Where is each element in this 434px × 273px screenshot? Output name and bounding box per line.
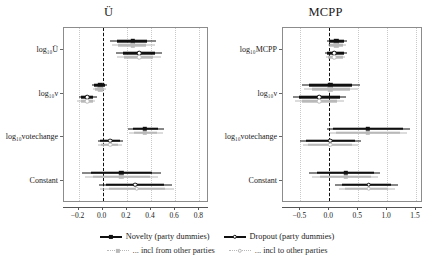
legend-label-incl-from: ... incl from other parties	[133, 246, 215, 255]
x-axis-tick	[102, 207, 103, 210]
panel-title-u: Ü	[0, 5, 217, 20]
x-axis-line	[63, 207, 208, 208]
x-axis-tick-label: −0.5	[293, 211, 307, 220]
legend-key-hollow-light-icon	[229, 247, 251, 254]
legend-item-novelty: Novelty (party dummies)	[100, 232, 210, 241]
legend-key-solid-light-icon	[107, 247, 129, 254]
x-axis-tick	[174, 207, 175, 210]
x-axis-tick-label: 0.0	[324, 211, 333, 220]
y-axis-label: log₁₀MCPP	[240, 44, 277, 53]
x-axis-tick	[415, 207, 416, 210]
y-axis-tick	[279, 93, 282, 94]
y-axis-tick	[60, 180, 63, 181]
coefficient-plot-figure: Ü log₁₀Ülog₁₀νlog₁₀votechangeConstant −0…	[0, 0, 434, 273]
estimate-point	[143, 131, 147, 135]
estimate-point	[317, 99, 322, 104]
plot-area-mcpp	[282, 27, 422, 202]
x-axis-tick-label: 0.5	[353, 211, 362, 220]
estimate-point	[344, 174, 348, 178]
y-axis-label: Constant	[249, 176, 277, 185]
estimate-point	[366, 131, 370, 135]
y-axis-tick	[60, 49, 63, 50]
estimate-point	[85, 99, 90, 104]
y-axis-tick	[279, 136, 282, 137]
estimate-point	[134, 186, 139, 191]
x-axis-tick-label: 0.6	[169, 211, 178, 220]
x-axis-tick	[386, 207, 387, 210]
legend-key-solid-dark-icon	[100, 233, 122, 240]
x-axis-tick	[126, 207, 127, 210]
estimate-point	[366, 186, 371, 191]
estimate-point	[131, 43, 135, 47]
gridline	[175, 28, 177, 201]
y-axis-tick	[60, 136, 63, 137]
panel-mcpp: MCPP log₁₀MCPPlog₁₀νlog₁₀votechangeConst…	[217, 0, 434, 225]
y-axis-label: log₁₀ν	[258, 88, 277, 97]
y-axis-label: log₁₀votechange	[225, 132, 277, 141]
x-axis-tick	[150, 207, 151, 210]
x-axis-tick-label: 0.0	[97, 211, 106, 220]
x-axis-tick-label: 1.5	[410, 211, 419, 220]
gridline	[416, 28, 418, 201]
x-axis-tick	[78, 207, 79, 210]
estimate-point	[332, 55, 337, 60]
x-axis-tick	[198, 207, 199, 210]
x-axis-tick	[328, 207, 329, 210]
legend-label-novelty: Novelty (party dummies)	[126, 232, 210, 241]
estimate-point	[119, 174, 123, 178]
estimate-point	[137, 55, 142, 60]
legend-label-incl-to: ... incl to other parties	[255, 246, 328, 255]
legend-label-dropout: Dropout (party dummies)	[250, 232, 335, 241]
panel-title-mcpp: MCPP	[217, 5, 434, 20]
legend-item-incl-from: ... incl from other parties	[107, 246, 215, 255]
estimate-point	[108, 143, 113, 148]
y-axis-label: log₁₀ν	[39, 88, 58, 97]
x-axis-tick	[299, 207, 300, 210]
x-axis-tick-label: 0.8	[194, 211, 203, 220]
legend: Novelty (party dummies) Dropout (party d…	[0, 232, 434, 273]
estimate-point	[98, 87, 102, 91]
plot-area-u	[63, 27, 208, 202]
legend-key-hollow-dark-icon	[224, 233, 246, 240]
gridline	[387, 28, 389, 201]
y-axis-label: log₁₀Ü	[36, 44, 58, 53]
y-axis-tick	[279, 180, 282, 181]
estimate-point	[328, 87, 332, 91]
legend-item-dropout: Dropout (party dummies)	[224, 232, 335, 241]
estimate-point	[328, 143, 333, 148]
gridline	[199, 28, 201, 201]
x-axis-tick-label: 0.2	[121, 211, 130, 220]
panel-u: Ü log₁₀Ülog₁₀νlog₁₀votechangeConstant −0…	[0, 0, 217, 225]
x-axis-tick-label: 1.0	[381, 211, 390, 220]
y-axis-label: Constant	[30, 176, 58, 185]
estimate-point	[334, 43, 338, 47]
y-axis-label: log₁₀votechange	[6, 132, 58, 141]
x-axis-tick-label: −0.2	[71, 211, 85, 220]
y-axis-tick	[279, 49, 282, 50]
legend-item-incl-to: ... incl to other parties	[229, 246, 328, 255]
x-axis-tick-label: 0.4	[145, 211, 154, 220]
gridline	[79, 28, 81, 201]
x-axis-line	[282, 207, 422, 208]
y-axis-tick	[60, 93, 63, 94]
x-axis-tick	[357, 207, 358, 210]
gridline	[300, 28, 302, 201]
